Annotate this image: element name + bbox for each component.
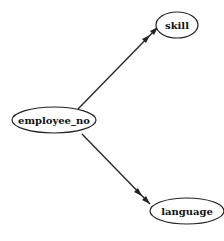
node-skill[interactable]: skill <box>156 12 198 38</box>
edge-employee-no-to-language <box>82 134 150 204</box>
diagram-canvas: skill employee_no language <box>0 0 224 241</box>
node-label-language: language <box>161 206 213 217</box>
edge-employee-no-to-skill <box>78 27 158 109</box>
node-language[interactable]: language <box>150 198 224 224</box>
node-label-employee-no: employee_no <box>18 115 90 126</box>
node-employee-no[interactable]: employee_no <box>12 107 96 133</box>
node-label-skill: skill <box>165 20 189 31</box>
